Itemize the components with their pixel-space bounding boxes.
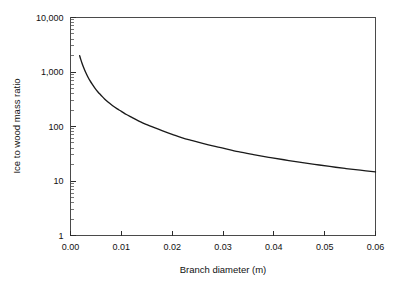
x-tick-label: 0.02 (163, 242, 181, 252)
y-tick-label: 1 (58, 231, 63, 241)
x-tick-label: 0.06 (367, 242, 385, 252)
y-axis-title: Ice to wood mass ratio (11, 78, 22, 173)
x-tick-label: 0.04 (265, 242, 283, 252)
x-tick-label: 0.03 (214, 242, 232, 252)
x-axis-title: Branch diameter (m) (180, 264, 267, 275)
y-tick-label: 100 (48, 122, 63, 132)
x-tick-label: 0.00 (62, 242, 80, 252)
x-tick-label: 0.01 (113, 242, 131, 252)
y-tick-label: 10 (53, 176, 63, 186)
chart-figure: 10,0001,000100101 0.000.010.020.030.040.… (0, 0, 397, 284)
y-tick-label: 1,000 (41, 67, 64, 77)
x-tick-label: 0.05 (316, 242, 334, 252)
y-tick-label: 10,000 (36, 13, 64, 23)
